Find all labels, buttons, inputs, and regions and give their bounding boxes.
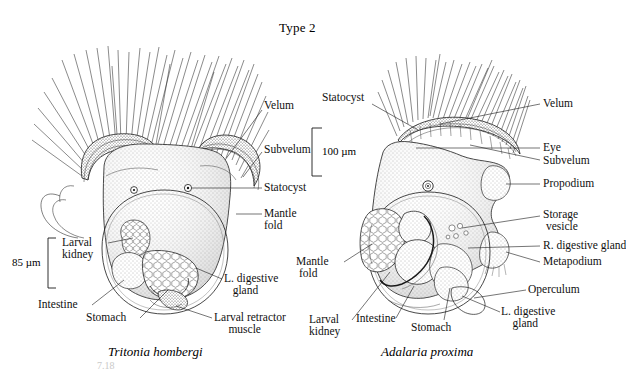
label-left-intestine: Intestine <box>38 299 78 311</box>
species-name-right: Adalaria proxima <box>381 344 473 360</box>
label-right-l-digestive-gland: L. digestive gland <box>501 306 555 330</box>
label-right-mantle-fold: Mantle fold <box>296 256 329 280</box>
label-left-stomach: Stomach <box>86 312 126 324</box>
label-right-eye: Eye <box>543 142 561 154</box>
statocyst-right <box>423 181 433 191</box>
label-left-larval-kidney: Larval kidney <box>62 237 93 261</box>
propodium-right <box>481 166 510 201</box>
label-left-subvelum: Subvelum <box>264 144 311 156</box>
larval-kidney-left <box>121 220 150 256</box>
metapodium-right <box>480 232 509 268</box>
scale-bracket-left <box>48 238 56 288</box>
label-right-operculum: Operculum <box>528 284 580 296</box>
label-right-stomach: Stomach <box>411 322 451 334</box>
label-right-storage-vesicle: Storage vesicle <box>543 209 578 233</box>
label-right-subvelum: Subvelum <box>543 155 590 167</box>
label-right-propodium: Propodium <box>543 178 594 190</box>
label-right-metapodium: Metapodium <box>543 256 602 268</box>
label-right-velum: Velum <box>543 98 573 110</box>
scale-bar-left: 85 µm <box>12 256 41 268</box>
label-left-mantle-fold: Mantle fold <box>264 208 297 232</box>
figure-caption-fragment: 7.18 <box>97 360 115 371</box>
label-left-l-digestive-gland: L. digestive gland <box>224 273 278 297</box>
figure-title: Type 2 <box>279 20 316 36</box>
digestive-mass-upper-right <box>399 211 431 244</box>
label-left-larval-retractor-muscle: Larval retractor muscle <box>214 312 286 336</box>
right-larva-drawing <box>360 54 530 314</box>
scale-bar-right: 100 µm <box>322 145 356 157</box>
scale-bracket-right <box>312 128 322 176</box>
label-right-r-digestive-gland: R. digestive gland <box>543 240 626 252</box>
species-name-left: Tritonia hombergi <box>108 344 203 360</box>
label-left-statocyst: Statocyst <box>264 182 306 194</box>
l-digestive-gland-left <box>112 253 148 289</box>
label-left-velum: Velum <box>264 100 294 112</box>
label-right-statocyst: Statocyst <box>322 92 364 104</box>
label-right-intestine: Intestine <box>356 313 396 325</box>
label-right-larval-kidney: Larval kidney <box>309 314 340 338</box>
